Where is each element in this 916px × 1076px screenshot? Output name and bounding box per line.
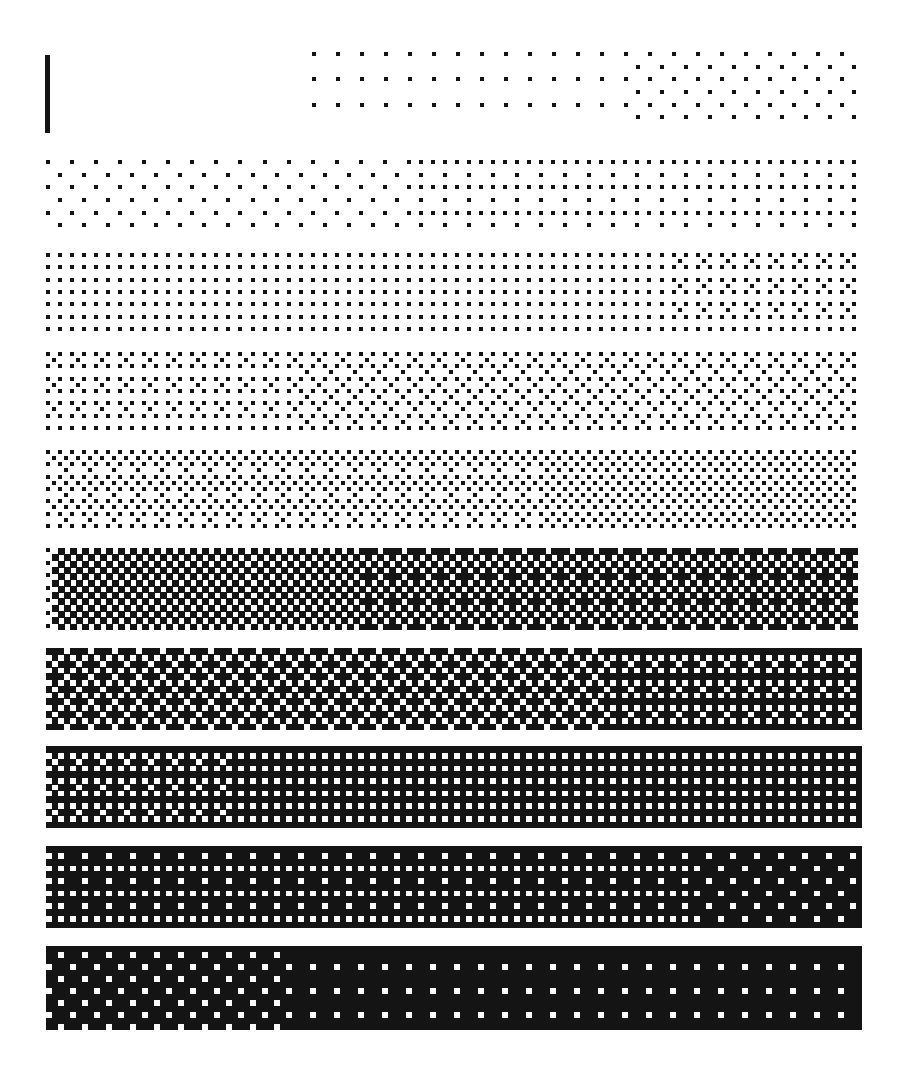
dither-band-4 — [46, 352, 858, 432]
dither-band-9 — [46, 846, 862, 928]
dither-band-2 — [46, 160, 858, 236]
dither-band-5 — [46, 450, 858, 530]
dither-band-3 — [46, 253, 858, 333]
vertical-marker-bar — [45, 55, 50, 133]
dither-band-1 — [312, 52, 858, 128]
dither-band-7 — [46, 648, 862, 730]
dither-band-6 — [46, 548, 858, 630]
dither-band-10 — [46, 946, 862, 1030]
dither-band-8 — [46, 746, 862, 828]
